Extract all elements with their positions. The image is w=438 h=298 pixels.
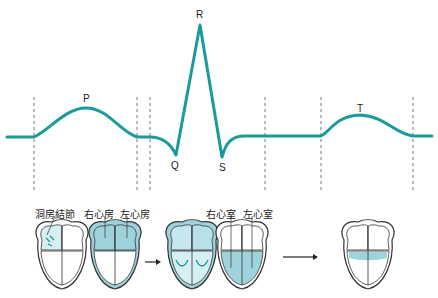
r-wave-label: R [196, 9, 203, 20]
heart-sa-node [36, 216, 88, 289]
heart-recovery [342, 220, 394, 289]
sa-node-label: 洞房結節 [35, 206, 75, 221]
ecg-waveform [7, 25, 432, 157]
heart-ventricles [216, 216, 268, 289]
p-wave-label: P [83, 93, 90, 104]
ecg-diagram [0, 0, 438, 298]
arrow-1 [145, 259, 161, 265]
s-wave-label: S [219, 162, 226, 173]
left-ventricle-label: 左心室 [243, 206, 273, 221]
left-atrium-label: 左心房 [120, 206, 150, 221]
right-atrium-label: 右心房 [84, 206, 114, 221]
heart-transition [166, 220, 218, 289]
right-ventricle-label: 右心室 [206, 206, 236, 221]
q-wave-label: Q [171, 160, 179, 171]
arrow-2 [283, 254, 318, 260]
heart-atria [89, 216, 141, 289]
t-wave-label: T [357, 103, 363, 114]
